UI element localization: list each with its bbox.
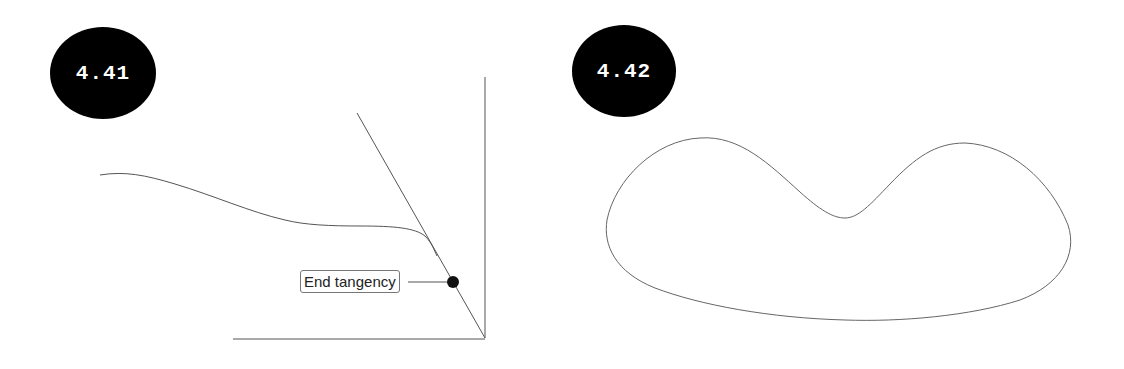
figure-number-label: 4.41: [76, 62, 130, 85]
end-tangency-callout: End tangency: [300, 270, 400, 293]
figure-4-41: 4.41 End tangency: [0, 0, 540, 369]
figure-number-badge: 4.42: [572, 25, 676, 117]
figure-number-badge: 4.41: [50, 27, 156, 119]
figure-number-label: 4.42: [597, 60, 651, 83]
figure-4-42: 4.42: [540, 0, 1124, 369]
